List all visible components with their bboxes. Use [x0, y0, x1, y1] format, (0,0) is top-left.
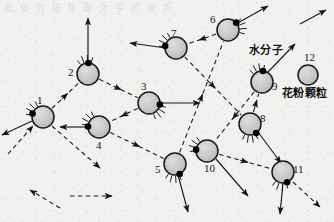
impact-hatch-4-1 [83, 119, 89, 122]
water-molecule-dot-7 [162, 43, 169, 50]
pollen-particle-5 [164, 153, 186, 175]
impact-hatch-8-1 [252, 136, 253, 142]
free-arrow-escape-5 [178, 175, 188, 212]
water-molecule-dot-10 [193, 146, 200, 153]
path-direction-arrow-4-to-5 [133, 143, 140, 147]
position-number-3: 3 [141, 81, 147, 92]
impact-hatch-10-2 [192, 140, 197, 144]
pollen-particle-label: 花粉颗粒 [282, 88, 328, 99]
position-number-4: 4 [96, 140, 102, 151]
path-direction-arrow-9-to-10 [233, 113, 238, 119]
free-arrow-escape-7a [130, 43, 166, 48]
motion-diagram-canvas [0, 0, 334, 222]
impact-hatch-5-2 [170, 176, 172, 182]
free-arrow-escape-8 [258, 132, 281, 163]
water-molecule-dot-5 [176, 171, 183, 178]
position-number-2: 2 [68, 67, 74, 78]
water-molecule-dot-3 [157, 101, 164, 108]
impact-hatch-11-2 [277, 183, 279, 189]
path-direction-arrow-3-to-4 [121, 113, 128, 116]
impact-hatch-6-1 [239, 23, 245, 25]
brownian-path-layer [52, 34, 271, 169]
path-direction-arrow-2-to-3 [114, 86, 121, 89]
position-number-6: 6 [210, 14, 216, 25]
impact-hatch-7-1 [159, 40, 165, 43]
pollen-particle-3 [138, 92, 160, 114]
impact-hatch-3-3 [154, 114, 156, 118]
impact-hatch-6-2 [240, 28, 246, 29]
impact-hatch-2-0 [78, 61, 81, 65]
position-number-10: 10 [204, 163, 215, 174]
free-arrow-out-of-11 [293, 182, 320, 207]
pollen-particle-4 [88, 116, 110, 138]
path-direction-arrow-7-to-8 [210, 82, 216, 88]
water-molecule-dot-4 [85, 123, 92, 130]
path-direction-arrow-10-to-11 [240, 160, 248, 162]
water-molecule-dot-6 [233, 19, 240, 26]
position-number-12: 12 [304, 52, 315, 63]
free-arrow-escape-6 [236, 6, 268, 24]
impact-hatch-4-2 [86, 114, 90, 118]
water-molecule-dot-2 [85, 60, 92, 67]
position-number-9: 9 [272, 81, 278, 92]
impact-hatch-3-2 [157, 112, 161, 117]
free-arrow-bottom-left [30, 190, 60, 208]
impact-hatch-2-3 [91, 58, 92, 62]
impact-hatch-4-3 [91, 112, 93, 116]
impact-hatch-11-3 [273, 182, 276, 186]
impact-hatch-8-2 [247, 136, 248, 142]
pollen-particle-2 [77, 63, 99, 85]
water-molecule-dot-8 [253, 130, 260, 137]
impact-hatch-8-3 [243, 135, 245, 139]
position-number-11: 11 [293, 164, 304, 175]
impact-hatch-5-3 [166, 174, 169, 178]
impact-hatch-7-3 [168, 33, 170, 37]
water-molecule-dot-9 [260, 68, 267, 75]
position-number-1: 1 [37, 95, 43, 106]
free-arrow-escape-10 [216, 159, 248, 196]
pollen-particle-7 [165, 37, 187, 59]
pollen-particle-1 [32, 106, 54, 128]
pollen-particle-10 [196, 140, 218, 162]
water-molecule-label: 水分子 [249, 45, 283, 56]
path-direction-arrow-5-to-6 [200, 94, 203, 101]
impact-hatch-6-3 [240, 33, 244, 34]
impact-hatch-1-2 [30, 104, 34, 108]
water-molecule-dot-11 [284, 179, 291, 186]
position-number-7: 7 [171, 28, 177, 39]
water-molecule-dot-1 [29, 110, 36, 117]
impact-hatch-9-0 [250, 70, 253, 73]
pollen-particle-11 [272, 161, 294, 183]
pollen-particle-9 [251, 71, 273, 93]
path-direction-arrow-8-to-9 [255, 100, 257, 108]
brownian-motion-figure: 此 处 为 纸 背 面 文 字 的 淡 影 123456789101112 水分… [0, 0, 334, 222]
impact-hatch-9-2 [259, 64, 260, 70]
impact-hatch-7-2 [162, 36, 167, 40]
pollen-particle-12 [298, 65, 318, 85]
path-direction-arrow-1-to-2 [62, 93, 68, 99]
impact-hatch-3-1 [159, 109, 164, 112]
impact-hatch-10-3 [197, 138, 200, 142]
impact-hatch-9-1 [253, 66, 256, 72]
free-arrow-escape-1 [2, 121, 32, 135]
free-arrow-up-right-12 [300, 10, 326, 24]
impact-hatch-2-1 [82, 57, 84, 63]
position-number-8: 8 [260, 113, 266, 124]
position-number-5: 5 [155, 164, 161, 175]
path-direction-arrow-6-to-7 [199, 37, 207, 40]
